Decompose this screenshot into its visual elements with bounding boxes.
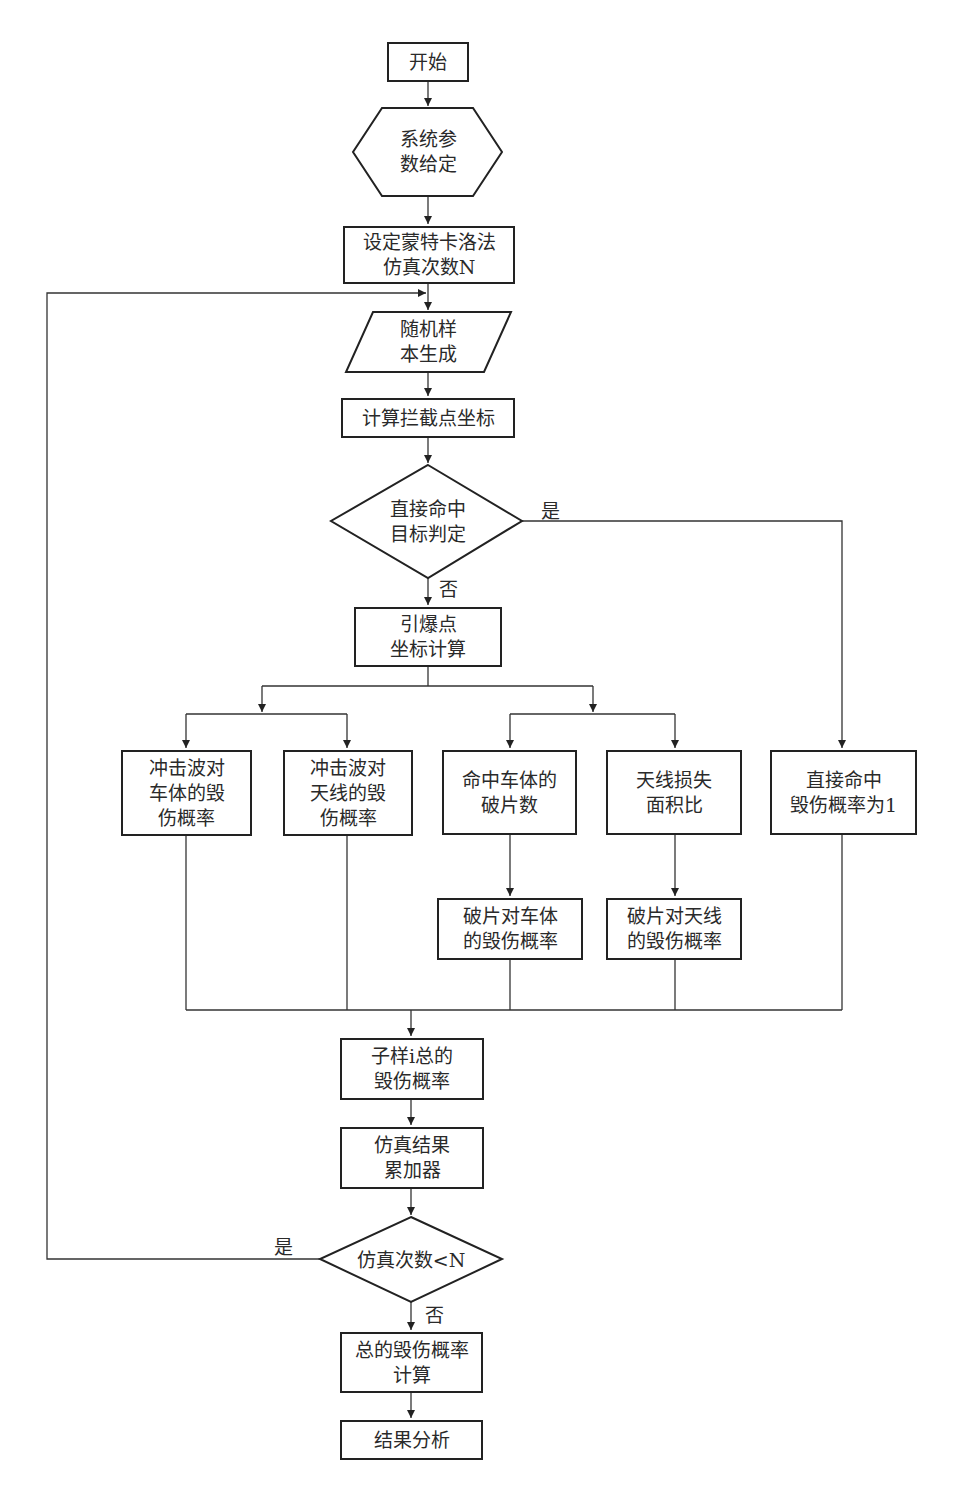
direct-yes-label: 是 <box>541 496 560 523</box>
fragments-vehicle-node: 命中车体的 破片数 <box>442 750 577 835</box>
detonation-node: 引爆点 坐标计算 <box>354 607 502 667</box>
analysis-node: 结果分析 <box>340 1420 483 1460</box>
frag-vehicle-prob-node: 破片对车体 的毁伤概率 <box>437 898 583 960</box>
antenna-area-node: 天线损失 面积比 <box>606 750 742 835</box>
loop-no-label: 否 <box>425 1300 444 1327</box>
intercept-node: 计算拦截点坐标 <box>341 398 515 438</box>
loop-yes-label: 是 <box>274 1232 293 1259</box>
loop-decision-node: 仿真次数<N <box>341 1245 481 1275</box>
direct-no-label: 否 <box>439 574 458 601</box>
total-prob-node: 总的毁伤概率 计算 <box>340 1332 483 1393</box>
frag-antenna-prob-node: 破片对天线 的毁伤概率 <box>606 898 742 960</box>
blast-vehicle-node: 冲击波对 车体的毁 伤概率 <box>121 750 252 836</box>
sample-total-node: 子样i总的 毁伤概率 <box>340 1038 484 1100</box>
blast-antenna-node: 冲击波对 天线的毁 伤概率 <box>283 750 413 836</box>
accumulator-node: 仿真结果 累加器 <box>340 1127 484 1189</box>
params-node: 系统参 数给定 <box>370 112 486 192</box>
direct-hit-prob-node: 直接命中 毁伤概率为1 <box>770 750 917 835</box>
set-n-node: 设定蒙特卡洛法 仿真次数N <box>343 226 515 284</box>
random-sample-node: 随机样 本生成 <box>370 314 486 370</box>
direct-hit-decision-node: 直接命中 目标判定 <box>368 495 488 549</box>
start-node: 开始 <box>387 42 469 82</box>
